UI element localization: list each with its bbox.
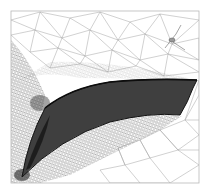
fine-mesh-upper <box>20 62 197 80</box>
probe-marker <box>165 25 185 50</box>
mesh-region <box>11 12 199 183</box>
mesh-canvas <box>0 0 210 189</box>
mesh-figure <box>0 0 210 189</box>
